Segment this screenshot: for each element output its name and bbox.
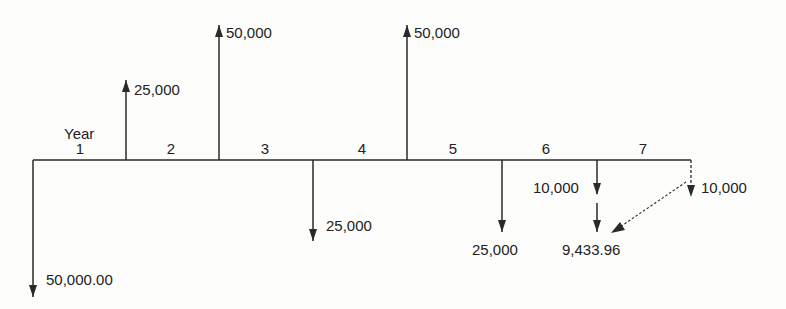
cash-outflow-arrow-year6: [593, 160, 601, 195]
value-label-year6: 10,000: [533, 180, 579, 195]
value-label-year4: 50,000: [414, 25, 460, 40]
cash-inflow-arrow-year4: [403, 25, 411, 160]
value-label-year1: 25,000: [134, 82, 180, 97]
period-label-2: 2: [161, 141, 181, 156]
period-label-5: 5: [443, 141, 463, 156]
cash-flow-diagram: [0, 0, 786, 309]
value-label-year3: 25,000: [326, 218, 372, 233]
cash-outflow-arrow-year0: [29, 160, 37, 297]
cash-inflow-arrow-year2: [215, 25, 223, 160]
value-label-discounted: 9,433.96: [562, 242, 620, 257]
period-label-7: 7: [633, 141, 653, 156]
discounted-arrow-year6: [593, 203, 601, 232]
cash-inflow-arrow-year1: [122, 80, 130, 160]
period-label-1: 1: [70, 141, 90, 156]
period-label-4: 4: [352, 141, 372, 156]
value-label-year7: 10,000: [701, 180, 747, 195]
period-label-6: 6: [536, 141, 556, 156]
cash-outflow-arrow-year3: [309, 160, 317, 241]
value-label-year2: 50,000: [226, 25, 272, 40]
axis-label-year: Year: [64, 126, 94, 141]
value-label-year5: 25,000: [472, 242, 518, 257]
period-label-3: 3: [255, 141, 275, 156]
cash-outflow-arrow-year5: [498, 160, 506, 232]
value-label-year0: 50,000.00: [46, 272, 113, 287]
discount-path-arrow: [611, 182, 686, 233]
dashed-outflow-arrow-year7: [687, 160, 695, 197]
